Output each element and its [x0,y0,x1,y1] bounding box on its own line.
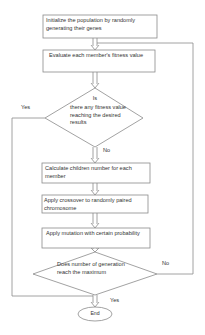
init-box-text: Initialize the population by randomly ge… [46,17,156,32]
crossover-box-text: Apply crossover to randomly paired chrom… [44,197,144,212]
arrow-mutation-decision2 [91,248,99,252]
decision1-text: there any fitness value reaching the des… [70,104,126,127]
end-text: End [78,310,112,318]
decision1-no-label: No [103,147,110,154]
arrow-crossover-mutation [91,213,99,228]
decision2-no-label: No [162,260,169,267]
evaluate-box-text: Evaluate each member's fitness value [49,52,144,60]
mutation-box-text: Apply mutation with certain probability [46,230,146,238]
children-box-text: Calculate children number for each membe… [45,165,145,180]
decision2-yes-label: Yes [110,297,119,304]
arrow-init-evaluate [91,38,99,50]
decision2-no-connector [97,43,193,274]
arrow-children-crossover [91,183,99,195]
decision2-text: Does number of generation reach the maxi… [57,261,137,276]
decision1-text-is: Is [88,95,102,103]
arrow-decision2-end [91,295,99,307]
arrow-decision1-children [91,147,99,163]
arrow-evaluate-decision1 [91,72,99,88]
decision1-yes-label: Yes [21,104,30,111]
